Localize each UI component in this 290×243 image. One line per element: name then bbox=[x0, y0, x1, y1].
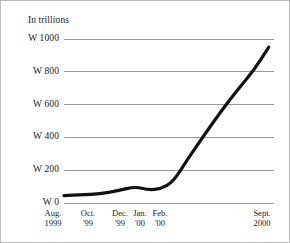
y-axis-tick-label: W 0 bbox=[43, 197, 59, 207]
x-axis-tick-label: Feb.'00 bbox=[138, 208, 182, 228]
x-axis-tick-label: Sept.2000 bbox=[240, 208, 284, 228]
x-axis-tick-label-year: 2000 bbox=[240, 218, 284, 228]
y-axis-tick-label: W 200 bbox=[33, 164, 59, 174]
x-axis-tick-label-year: '00 bbox=[138, 218, 182, 228]
y-axis-tick-label: W 600 bbox=[33, 99, 59, 109]
y-axis-tick-label: W 800 bbox=[33, 66, 59, 76]
data-line-1 bbox=[64, 47, 269, 195]
x-axis-tick-label-month: Feb. bbox=[138, 208, 182, 218]
x-axis-tick-label-month: Sept. bbox=[240, 208, 284, 218]
gridlines bbox=[64, 39, 274, 203]
plot-area: W 0W 200W 400W 600W 800W 1000 Aug.1999Oc… bbox=[1, 1, 290, 243]
y-axis-tick-label: W 1000 bbox=[28, 33, 59, 43]
data-series-group bbox=[64, 47, 269, 195]
chart-container: In trillions W 0W 200W 400W 600W 800W 10… bbox=[0, 0, 290, 243]
y-axis-tick-label: W 400 bbox=[33, 131, 59, 141]
